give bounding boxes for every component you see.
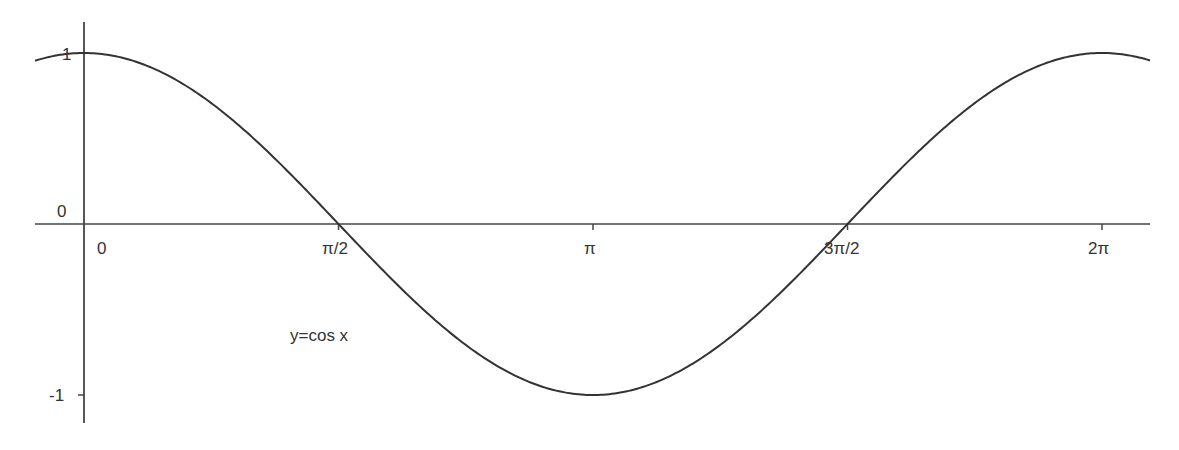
cosine-chart: 1 0 -1 0 π/2 π 3π/2 2π y=cos x [0,0,1179,450]
x-ticks [339,224,1103,230]
y-tick-label-0: 0 [57,202,66,221]
x-tick-label-0: 0 [97,239,106,258]
y-tick-label-neg1: -1 [49,386,64,405]
y-tick-label-1: 1 [62,45,71,64]
x-tick-label-pi-half: π/2 [322,239,348,258]
function-label: y=cos x [290,326,349,345]
x-tick-label-2pi: 2π [1088,239,1109,258]
x-tick-label-3pi-half: 3π/2 [824,239,859,258]
x-tick-label-pi: π [584,239,596,258]
